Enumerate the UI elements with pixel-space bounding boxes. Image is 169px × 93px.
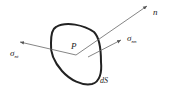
sigma-nt-arrow xyxy=(20,42,76,55)
sigma-nn-arrow xyxy=(88,40,121,57)
sigma-nn-label: σnn xyxy=(127,33,137,44)
normal-vector-arrow xyxy=(76,6,147,55)
surface-label: dS xyxy=(100,76,108,85)
normal-label: n xyxy=(153,7,158,17)
point-label: P xyxy=(70,41,77,51)
sigma-nt-label: σnt xyxy=(10,48,19,59)
stress-diagram: n P σnt σnn dS xyxy=(0,0,169,93)
